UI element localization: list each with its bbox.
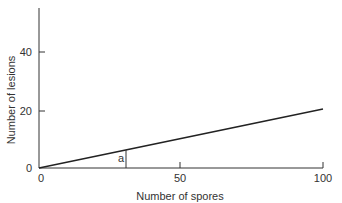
y-tick-label-40: 40 xyxy=(20,46,32,58)
chart-svg: a 0 20 40 0 50 100 Number of spores Numb… xyxy=(0,0,342,203)
chart: a 0 20 40 0 50 100 Number of spores Numb… xyxy=(0,0,342,203)
y-axis-label: Number of lesions xyxy=(5,55,17,144)
x-axis-label: Number of spores xyxy=(136,190,224,202)
x-tick-label-0: 0 xyxy=(38,172,44,184)
y-tick-label-20: 20 xyxy=(20,105,32,117)
data-line xyxy=(39,109,323,168)
y-tick-label-0: 0 xyxy=(26,162,32,174)
x-tick-label-50: 50 xyxy=(174,172,186,184)
x-tick-label-100: 100 xyxy=(314,172,332,184)
angle-label: a xyxy=(118,152,125,164)
